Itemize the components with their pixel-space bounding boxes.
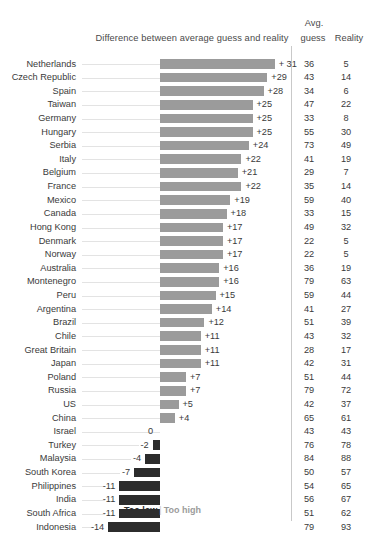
bar-canada bbox=[160, 209, 227, 219]
avg-guess-value: 65 bbox=[294, 412, 324, 426]
row-label-japan: Japan bbox=[51, 357, 76, 371]
avg-guess-value: 79 bbox=[294, 384, 324, 398]
bar-value-label: +16 bbox=[223, 262, 239, 276]
reality-value: 19 bbox=[329, 153, 363, 167]
leader-line bbox=[82, 405, 160, 406]
reality-value: 93 bbox=[329, 521, 363, 534]
reality-value: 49 bbox=[329, 139, 363, 153]
bar-india bbox=[119, 495, 160, 505]
avg-guess-value: 50 bbox=[294, 466, 324, 480]
reality-value: 32 bbox=[329, 330, 363, 344]
table-row: Serbia+247349 bbox=[0, 139, 370, 153]
bar-poland bbox=[160, 372, 186, 382]
leader-line bbox=[82, 159, 160, 160]
reality-value: 61 bbox=[329, 412, 363, 426]
bar-value-label: +7 bbox=[190, 384, 200, 398]
bar-hong-kong bbox=[160, 223, 223, 233]
bar-value-label: -7 bbox=[122, 466, 130, 480]
bar-value-label: +25 bbox=[257, 98, 273, 112]
reality-value: 43 bbox=[329, 425, 363, 439]
bar-value-label: +28 bbox=[268, 85, 284, 99]
row-label-czech-republic: Czech Republic bbox=[12, 71, 76, 85]
avg-guess-value: 59 bbox=[294, 194, 324, 208]
bar-value-label: +4 bbox=[179, 412, 189, 426]
bar-value-label: -11 bbox=[103, 507, 116, 521]
reality-value: 65 bbox=[329, 480, 363, 494]
reality-value: 7 bbox=[329, 166, 363, 180]
row-label-mexico: Mexico bbox=[47, 194, 76, 208]
bar-spain bbox=[160, 86, 264, 96]
bar-value-label: +21 bbox=[242, 166, 258, 180]
leader-line bbox=[82, 364, 160, 365]
leader-line bbox=[82, 309, 160, 310]
row-label-taiwan: Taiwan bbox=[47, 98, 76, 112]
avg-guess-value: 84 bbox=[294, 452, 324, 466]
bar-value-label: +11 bbox=[205, 357, 220, 371]
bar-value-label: +15 bbox=[220, 289, 236, 303]
bar-value-label: +29 bbox=[271, 71, 287, 85]
row-label-south-korea: South Korea bbox=[25, 466, 76, 480]
table-row: Turkey-27678 bbox=[0, 439, 370, 453]
bar-value-label: -14 bbox=[91, 521, 104, 534]
row-label-netherlands: Netherlands bbox=[26, 58, 76, 72]
leader-line bbox=[82, 241, 160, 242]
avg-guess-value: 47 bbox=[294, 98, 324, 112]
table-row: Australia+163619 bbox=[0, 262, 370, 276]
reality-value: 8 bbox=[329, 112, 363, 126]
bar-argentina bbox=[160, 304, 212, 314]
bar-value-label: -11 bbox=[103, 480, 116, 494]
avg-guess-value: 22 bbox=[294, 235, 324, 249]
avg-guess-value: 73 bbox=[294, 139, 324, 153]
table-row: Czech Republic+294314 bbox=[0, 71, 370, 85]
bar-indonesia bbox=[108, 522, 160, 532]
leader-line bbox=[82, 445, 139, 446]
table-row: Canada+183315 bbox=[0, 207, 370, 221]
reality-value: 27 bbox=[329, 303, 363, 317]
avg-guess-value: 41 bbox=[294, 303, 324, 317]
bar-brazil bbox=[160, 318, 204, 328]
bar-value-label: +17 bbox=[227, 248, 243, 262]
table-row: Chile+114332 bbox=[0, 330, 370, 344]
avg-guess-value: 49 bbox=[294, 221, 324, 235]
row-label-canada: Canada bbox=[44, 207, 76, 221]
bar-australia bbox=[160, 263, 219, 273]
bar-value-label: +25 bbox=[257, 112, 273, 126]
bar-value-label: +22 bbox=[245, 153, 261, 167]
leader-line bbox=[82, 91, 160, 92]
bar-belgium bbox=[160, 168, 238, 178]
table-row: Great Britain+112817 bbox=[0, 344, 370, 358]
avg-guess-value: 28 bbox=[294, 344, 324, 358]
leader-line bbox=[82, 473, 120, 474]
bar-value-label: +19 bbox=[234, 194, 250, 208]
leader-line bbox=[82, 255, 160, 256]
bar-value-label: -4 bbox=[133, 452, 141, 466]
table-row: Italy+224119 bbox=[0, 153, 370, 167]
bar-value-label: +11 bbox=[205, 344, 220, 358]
legend-too-high: Too high bbox=[164, 505, 201, 515]
leader-line bbox=[82, 132, 160, 133]
leader-line bbox=[82, 336, 160, 337]
row-label-peru: Peru bbox=[57, 289, 76, 303]
bar-japan bbox=[160, 359, 201, 369]
reality-value: 5 bbox=[329, 248, 363, 262]
table-row: Brazil+125139 bbox=[0, 316, 370, 330]
row-label-belgium: Belgium bbox=[43, 166, 76, 180]
bar-norway bbox=[160, 250, 223, 260]
table-row: Israel04343 bbox=[0, 425, 370, 439]
leader-line bbox=[82, 64, 160, 65]
table-row: Philippines-115465 bbox=[0, 480, 370, 494]
row-label-india: India bbox=[56, 493, 76, 507]
table-row: Poland+75144 bbox=[0, 371, 370, 385]
leader-line bbox=[82, 350, 160, 351]
table-row: Denmark+17225 bbox=[0, 235, 370, 249]
reality-value: 67 bbox=[329, 493, 363, 507]
bar-chile bbox=[160, 331, 201, 341]
leader-line bbox=[82, 228, 160, 229]
avg-guess-value: 79 bbox=[294, 275, 324, 289]
row-label-brazil: Brazil bbox=[53, 316, 76, 330]
row-label-denmark: Denmark bbox=[39, 235, 76, 249]
avg-guess-value: 51 bbox=[294, 507, 324, 521]
reality-value: 63 bbox=[329, 275, 363, 289]
reality-value: 30 bbox=[329, 126, 363, 140]
